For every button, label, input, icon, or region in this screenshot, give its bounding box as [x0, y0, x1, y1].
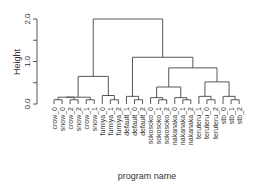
leaf-label: stb_1	[228, 107, 236, 124]
leaf-label: sokosoko_2	[163, 107, 171, 144]
dendrogram-chart: 0.01.02.0 Height crow_0snow_0crow_2snow_…	[0, 0, 259, 188]
leaf-label: default_0	[131, 107, 139, 136]
leaf-labels: crow_0snow_0crow_2snow_2crow_1snow_1fumi…	[51, 107, 244, 145]
leaf-label: fumiya_2	[115, 107, 123, 136]
leaf-label: stb_0	[220, 107, 228, 124]
leaf-label: fumiya_1	[107, 107, 115, 136]
leaf-label: crow_2	[67, 107, 75, 130]
leaf-label: default_1	[123, 107, 131, 136]
leaf-label: snow_1	[91, 107, 99, 131]
leaf-label: crow_0	[51, 107, 59, 130]
leaf-label: snow_0	[59, 107, 67, 131]
leaf-label: nakanaka_0	[171, 107, 179, 145]
leaf-label: nakanaka_1	[179, 107, 187, 145]
y-tick-label: 0.0	[23, 98, 32, 110]
y-axis-title: Height	[12, 48, 22, 75]
leaf-label: fumiya_0	[99, 107, 107, 136]
leaf-label: teruteru_0	[203, 107, 211, 139]
leaf-label: teruteru_2	[212, 107, 220, 139]
leaf-label: default_2	[139, 107, 147, 136]
dendrogram-tree	[54, 19, 239, 104]
y-axis: 0.01.02.0	[23, 13, 37, 110]
leaf-label: nakanaka_2	[187, 107, 195, 145]
leaf-label: teruteru_1	[195, 107, 203, 139]
leaf-label: crow_1	[83, 107, 91, 130]
leaf-label: stb_2	[236, 107, 244, 124]
y-tick-label: 2.0	[23, 13, 32, 25]
leaf-label: sokosoko_0	[147, 107, 155, 144]
x-axis-title: program name	[118, 171, 177, 181]
y-tick-label: 1.0	[23, 55, 32, 67]
leaf-label: snow_2	[75, 107, 83, 131]
leaf-label: sokosoko_1	[155, 107, 163, 144]
